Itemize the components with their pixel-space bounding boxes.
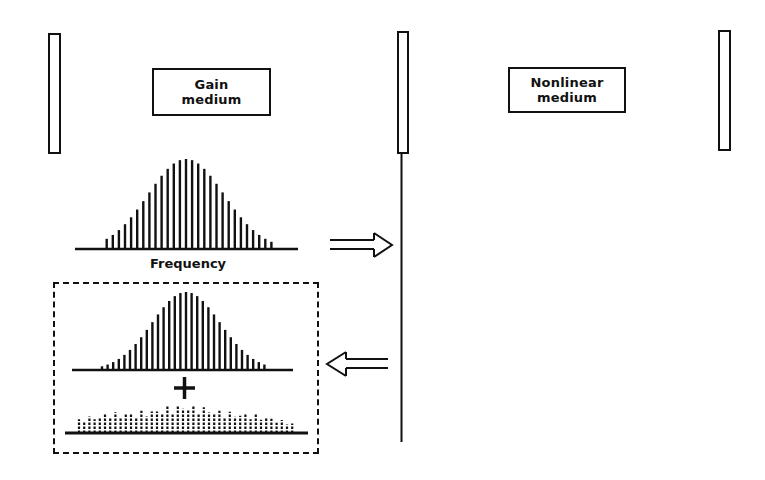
right-arrow-icon: [330, 233, 392, 257]
gain-spectrum: [107, 159, 272, 249]
left-arrow-icon: [327, 352, 388, 376]
plus-icon: [174, 377, 195, 399]
returned-spectrum: [102, 292, 264, 370]
diagram-canvas: [0, 0, 765, 480]
noise-spectrum: [79, 405, 292, 433]
